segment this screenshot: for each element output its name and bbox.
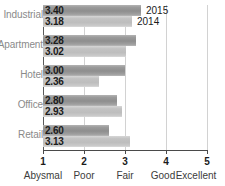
bar-industrial-2014: 3.18 [43,16,132,27]
bar-apartment-2014: 3.02 [43,46,126,57]
tick-word-excellent: Excellent [166,170,225,181]
bar-value-retail-2015: 2.60 [45,125,64,136]
bar-value-retail-2014: 3.13 [45,136,64,147]
tick-mark-4 [166,150,167,154]
bar-retail-2015: 2.60 [43,125,109,136]
bar-value-hotel-2014: 2.36 [45,76,64,87]
tick-number-3: 3 [110,156,140,167]
category-label-office: Office [0,99,43,110]
category-label-industrial: Industrial [0,9,43,20]
bar-chart: Industrial Apartment Hotel Office Retail… [0,0,225,186]
tick-number-2: 2 [69,156,99,167]
bar-value-industrial-2015: 3.40 [45,5,64,16]
series-label-2015: 2015 [146,5,168,16]
tick-mark-5 [207,150,208,154]
tick-number-4: 4 [151,156,181,167]
category-label-hotel: Hotel [0,69,43,80]
tick-mark-1 [43,150,44,154]
tick-mark-2 [84,150,85,154]
plot-area: 3.40 3.18 2015 2014 3.28 3.02 3.00 2.36 … [43,5,207,150]
tick-number-5: 5 [192,156,222,167]
category-label-retail: Retail [0,129,43,140]
gridline-4 [166,5,167,150]
category-label-apartment: Apartment [0,39,43,50]
tick-number-1: 1 [28,156,58,167]
bar-value-industrial-2014: 3.18 [45,16,64,27]
bar-value-office-2015: 2.80 [45,95,64,106]
bar-apartment-2015: 3.28 [43,35,136,46]
bar-value-hotel-2015: 3.00 [45,65,64,76]
bar-hotel-2014: 2.36 [43,76,99,87]
gridline-5 [207,5,208,150]
bar-office-2014: 2.93 [43,106,122,117]
bar-office-2015: 2.80 [43,95,117,106]
bar-value-apartment-2015: 3.28 [45,35,64,46]
tick-mark-3 [125,150,126,154]
bar-industrial-2015: 3.40 [43,5,141,16]
bar-value-apartment-2014: 3.02 [45,46,64,57]
bar-retail-2014: 3.13 [43,136,130,147]
series-label-2014: 2014 [137,16,159,27]
bar-hotel-2015: 3.00 [43,65,125,76]
bar-value-office-2014: 2.93 [45,106,64,117]
